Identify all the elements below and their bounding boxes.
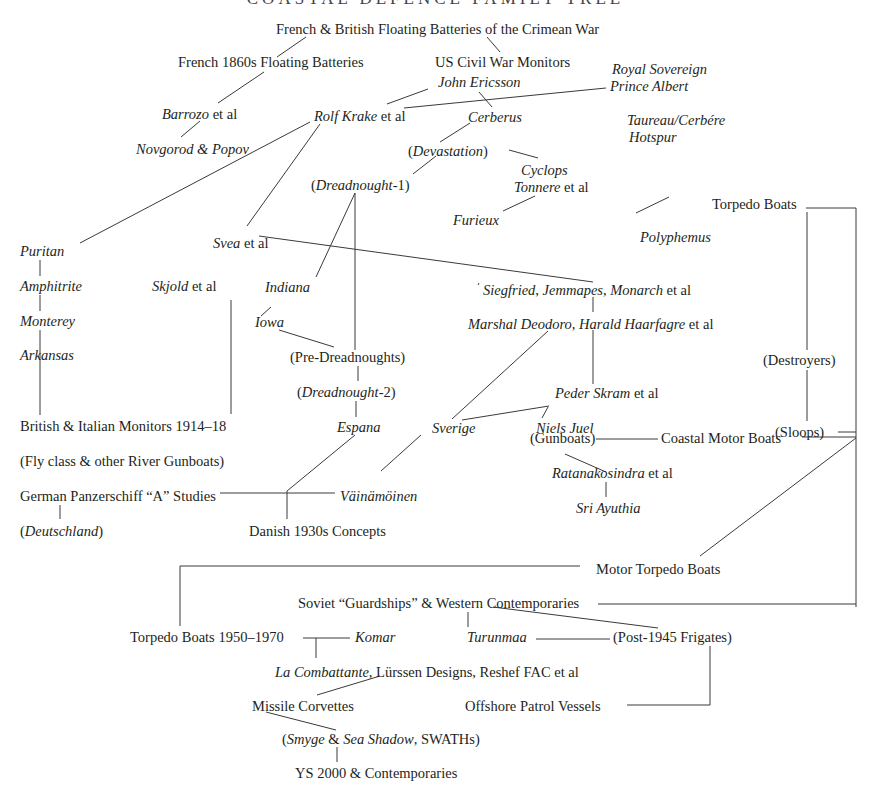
node-label-part: Novgorod & Popov xyxy=(136,141,249,157)
node-label-part: Svea xyxy=(213,235,240,251)
connector-line xyxy=(452,331,548,419)
node-cyclops: Cyclops xyxy=(521,162,568,179)
node-label-part: YS 2000 & Contemporaries xyxy=(295,765,457,781)
node-ys2000: YS 2000 & Contemporaries xyxy=(295,765,457,782)
node-label-part: et al xyxy=(630,385,658,401)
node-panzerschiff: German Panzerschiff “A” Studies xyxy=(20,488,216,505)
node-label-part: Royal Sovereign xyxy=(612,61,707,77)
node-sriayuthia: Sri Ayuthia xyxy=(576,500,641,517)
node-barrozo: Barrozo et al xyxy=(162,106,237,123)
connector-line xyxy=(259,236,593,282)
connector-line xyxy=(387,89,428,104)
node-label-part: (Post-1945 Frigates) xyxy=(613,629,732,645)
connector-line xyxy=(218,72,264,103)
node-label-part: -2) xyxy=(379,384,396,400)
node-pederskram: Peder Skram et al xyxy=(555,385,658,402)
node-label-part: Espana xyxy=(337,419,381,435)
node-label-part: Jemmapes xyxy=(543,282,603,298)
node-label-part: , xyxy=(535,282,542,298)
node-label-part: US Civil War Monitors xyxy=(435,54,570,70)
node-uscivilwar: US Civil War Monitors xyxy=(435,54,570,71)
node-label-part: , xyxy=(572,316,579,332)
node-johnericsson: John Ericsson xyxy=(438,74,521,91)
node-furieux: Furieux xyxy=(453,212,499,229)
node-offshore: Offshore Patrol Vessels xyxy=(465,698,601,715)
node-label-part: (Pre-Dreadnoughts) xyxy=(290,349,405,365)
node-label-part: Komar xyxy=(355,629,395,645)
node-label-part: Sri Ayuthia xyxy=(576,500,641,516)
node-marshal: Marshal Deodoro, Harald Haarfagre et al xyxy=(468,316,713,333)
node-label-part: Skjold xyxy=(152,278,188,294)
connector-line xyxy=(440,123,470,142)
node-label-part: Furieux xyxy=(453,212,499,228)
node-label-part: Devastation xyxy=(413,143,483,159)
node-label-part: Arkansas xyxy=(20,347,74,363)
node-label-part: French 1860s Floating Batteries xyxy=(178,54,364,70)
node-monterey: Monterey xyxy=(20,313,75,330)
node-tonnere: Tonnere et al xyxy=(514,179,589,196)
node-sverige: Sverige xyxy=(432,420,475,437)
node-label-part: Taureau/Cerbére xyxy=(627,112,725,128)
node-dreadnought2: (Dreadnought-2) xyxy=(297,384,396,401)
node-label-part: British & Italian Monitors 1914–18 xyxy=(20,418,226,434)
node-label-part: , Lürssen Designs, Reshef FAC et al xyxy=(369,664,579,680)
node-label-part: et al xyxy=(377,108,405,124)
node-label-part: Torpedo Boats xyxy=(712,196,797,212)
node-french1860s: French 1860s Floating Batteries xyxy=(178,54,364,71)
node-label-part: Offshore Patrol Vessels xyxy=(465,698,601,714)
node-label-part: Cyclops xyxy=(521,162,568,178)
node-label-part: et al xyxy=(188,278,216,294)
node-tb1950: Torpedo Boats 1950–1970 xyxy=(130,629,284,646)
node-label-part: Cerberus xyxy=(468,109,522,125)
node-label-part: Hotspur xyxy=(629,129,677,145)
node-label-part: Dreadnought xyxy=(302,384,379,400)
node-label-part: & xyxy=(325,731,344,747)
family-tree-diagram: COASTAL DEFENCE FAMILY TREE French & Bri… xyxy=(0,0,871,795)
connector-line xyxy=(287,435,355,491)
node-devastation: (Devastation) xyxy=(408,143,488,160)
node-smyge: (Smyge & Sea Shadow, SWATHs) xyxy=(282,731,480,748)
node-amphitrite: Amphitrite xyxy=(20,278,82,295)
connector-line xyxy=(247,124,320,226)
node-princealbert: Prince Albert xyxy=(610,78,688,95)
node-label-part: Väinämöinen xyxy=(340,488,417,504)
node-label-part: Coastal Motor Boats xyxy=(661,430,781,446)
node-britishitalian: British & Italian Monitors 1914–18 xyxy=(20,418,226,435)
node-label-part: , SWATHs) xyxy=(414,731,480,747)
node-vainamoinen: Väinämöinen xyxy=(340,488,417,505)
node-label-part: Barrozo xyxy=(162,106,209,122)
connector-line xyxy=(542,407,548,418)
node-dreadnought1: (Dreadnought-1) xyxy=(311,177,410,194)
connector-line xyxy=(279,330,334,347)
node-label-part: Siegfried xyxy=(483,282,535,298)
node-cerberus: Cerberus xyxy=(468,109,522,126)
node-label-part: Deutschland xyxy=(25,523,98,539)
node-label-part: ) xyxy=(98,523,103,539)
node-label-part: Puritan xyxy=(20,243,64,259)
node-label-part: Monterey xyxy=(20,313,75,329)
node-label-part: (Sloops) xyxy=(775,424,824,440)
node-label-part: Polyphemus xyxy=(640,229,711,245)
connector-line xyxy=(404,88,606,108)
node-label-part: Turunmaa xyxy=(467,629,527,645)
connector-line xyxy=(181,121,200,137)
node-siegfried: Siegfried, Jemmapes, Monarch et al xyxy=(483,282,691,299)
node-svea: Svea et al xyxy=(213,235,269,252)
node-label-part: Prince Albert xyxy=(610,78,688,94)
node-coastalmotor: Coastal Motor Boats xyxy=(661,430,781,447)
node-label-part: Sverige xyxy=(432,420,475,436)
node-hotspur: Hotspur xyxy=(629,129,677,146)
node-label-part: Tonnere xyxy=(514,179,560,195)
node-label-part: Motor Torpedo Boats xyxy=(596,561,720,577)
node-motortorpedo: Motor Torpedo Boats xyxy=(596,561,720,578)
node-label-part: Soviet “Guardships” & Western Contempora… xyxy=(298,595,579,611)
connector-line xyxy=(478,283,479,285)
connector-line xyxy=(381,435,421,471)
node-taureau: Taureau/Cerbére xyxy=(627,112,725,129)
node-label-part: (Destroyers) xyxy=(763,352,835,368)
node-puritan: Puritan xyxy=(20,243,64,260)
node-indiana: Indiana xyxy=(265,279,310,296)
node-label-part: French & British Floating Batteries of t… xyxy=(276,21,599,37)
node-ratanakosindra: Ratanakosindra et al xyxy=(552,465,673,482)
node-crimean: French & British Floating Batteries of t… xyxy=(276,21,599,38)
